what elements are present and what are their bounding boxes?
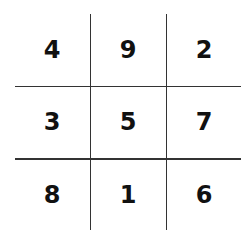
cell-r1-c1: 4 [22,30,82,70]
grid-line-vertical-2 [166,14,168,230]
grid-line-vertical-1 [90,14,92,230]
cell-r3-c2: 1 [98,175,158,215]
cell-r1-c3: 2 [174,30,234,70]
cell-r3-c3: 6 [174,175,234,215]
cell-r1-c2: 9 [98,30,158,70]
cell-r3-c1: 8 [22,175,82,215]
cell-r2-c3: 7 [174,102,234,142]
cell-r2-c2: 5 [98,102,158,142]
grid-line-horizontal-1 [15,86,241,88]
grid-line-horizontal-2 [15,158,241,160]
cell-r2-c1: 3 [22,102,82,142]
